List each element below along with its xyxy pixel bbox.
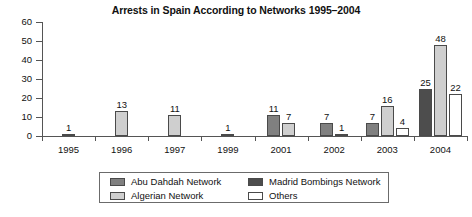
legend-row: Algerian Network Others: [100, 189, 388, 202]
legend-item-others: Others: [248, 189, 298, 202]
y-axis-tick-label: 60: [2, 16, 32, 27]
y-axis-tick-label: 0: [2, 130, 32, 141]
legend-item-algerian-network: Algerian Network: [110, 189, 203, 202]
x-axis-tick: [95, 136, 96, 141]
y-axis-tick-label: 20: [2, 92, 32, 103]
x-axis-tick: [201, 136, 202, 141]
x-axis-tick-label: 1996: [95, 144, 148, 155]
legend-label: Madrid Bombings Network: [269, 177, 380, 187]
bar-value-label: 4: [390, 116, 415, 127]
y-axis-tick-label: 50: [2, 35, 32, 46]
legend-item-madrid-bombings-network: Madrid Bombings Network: [248, 175, 380, 188]
bar: [115, 111, 128, 136]
legend-swatch-icon: [248, 192, 263, 200]
legend-label: Algerian Network: [131, 191, 203, 201]
x-axis-tick: [414, 136, 415, 141]
bar: [396, 128, 409, 136]
bar-value-label: 48: [428, 33, 453, 44]
x-axis-tick: [148, 136, 149, 141]
legend-swatch-icon: [110, 178, 125, 186]
x-axis-tick-label: 2004: [414, 144, 467, 155]
bar-value-label: 7: [314, 111, 339, 122]
x-axis-tick: [308, 136, 309, 141]
bar: [168, 115, 181, 136]
x-axis-tick: [361, 136, 362, 141]
bar: [419, 89, 432, 137]
bar-value-label: 1: [56, 122, 81, 133]
legend-swatch-icon: [110, 192, 125, 200]
x-axis-tick-label: 2002: [308, 144, 361, 155]
chart-title: Arrests in Spain According to Networks 1…: [0, 4, 472, 16]
bar-value-label: 22: [443, 82, 468, 93]
bar: [62, 134, 75, 136]
bar-value-label: 16: [375, 94, 400, 105]
bar-value-label: 1: [329, 122, 354, 133]
bar: [335, 134, 348, 136]
legend-swatch-icon: [248, 178, 263, 186]
legend-row: Abu Dahdah Network Madrid Bombings Netwo…: [100, 175, 388, 188]
x-axis-tick-label: 2001: [255, 144, 308, 155]
x-axis-tick-label: 2003: [361, 144, 414, 155]
legend-label: Abu Dahdah Network: [131, 177, 221, 187]
plot-area: 113111117717164254822: [42, 22, 467, 136]
bar-value-label: 7: [276, 111, 301, 122]
x-axis-tick-label: 1997: [148, 144, 201, 155]
chart-figure: Arrests in Spain According to Networks 1…: [0, 0, 472, 217]
bar: [282, 123, 295, 136]
bar-value-label: 13: [109, 99, 134, 110]
legend-label: Others: [269, 191, 298, 201]
x-axis-tick: [42, 136, 43, 141]
bar-value-label: 1: [215, 122, 240, 133]
x-axis-tick-label: 1995: [42, 144, 95, 155]
bar: [366, 123, 379, 136]
y-axis-tick-label: 10: [2, 111, 32, 122]
x-axis-tick: [467, 136, 468, 141]
bar: [221, 134, 234, 136]
y-axis-tick-label: 40: [2, 54, 32, 65]
bar-value-label: 11: [162, 103, 187, 114]
y-axis-tick-label: 30: [2, 73, 32, 84]
legend-item-abu-dahdah-network: Abu Dahdah Network: [110, 175, 221, 188]
x-axis-tick: [255, 136, 256, 141]
chart-legend: Abu Dahdah Network Madrid Bombings Netwo…: [99, 172, 389, 203]
bar: [449, 94, 462, 136]
x-axis-tick-label: 1999: [201, 144, 254, 155]
